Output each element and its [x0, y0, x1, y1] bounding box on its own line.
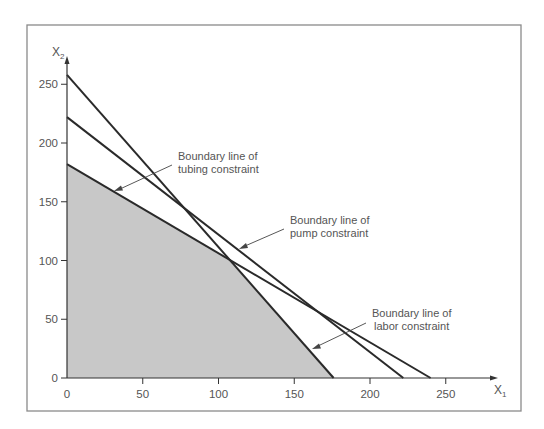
annotation-pump-line2: pump constraint: [290, 227, 368, 239]
annotation-labor-line2: labor constraint: [374, 320, 449, 332]
arrowhead-icon: [312, 344, 321, 350]
y-axis-title: X2: [52, 45, 65, 61]
y-tick-label: 50: [45, 313, 58, 325]
x-tick-label: 100: [209, 388, 228, 400]
x-tick-label: 150: [285, 388, 304, 400]
linear-programming-chart: 050100150200250 050100150200250 X2 X1 Bo…: [0, 0, 544, 429]
y-tick-label: 250: [39, 78, 58, 90]
x-tick-label: 50: [136, 388, 149, 400]
annotation-tubing-line1: Boundary line of: [178, 150, 258, 162]
y-tick-label: 150: [39, 196, 58, 208]
arrowhead-icon: [239, 243, 248, 249]
annotation-labor: Boundary line of labor constraint: [312, 307, 452, 349]
annotation-tubing-line2: tubing constraint: [178, 163, 259, 175]
y-axis-ticks: 050100150200250: [39, 78, 67, 384]
annotation-pump: Boundary line of pump constraint: [239, 214, 370, 249]
x-tick-label: 250: [436, 388, 455, 400]
annotation-pump-line1: Boundary line of: [290, 214, 370, 226]
annotation-labor-line1: Boundary line of: [372, 307, 452, 319]
x-axis-arrow-icon: [490, 376, 498, 381]
x-tick-label: 0: [64, 388, 70, 400]
annotation-pump-arrow: [245, 229, 284, 246]
y-tick-label: 200: [39, 137, 58, 149]
feasible-region: [67, 164, 334, 378]
x-axis-ticks: 050100150200250: [64, 378, 456, 400]
x-tick-label: 200: [360, 388, 379, 400]
y-tick-label: 0: [52, 372, 58, 384]
y-axis-arrow-icon: [65, 56, 70, 64]
y-tick-label: 100: [39, 255, 58, 267]
arrowhead-icon: [114, 186, 123, 192]
x-axis-title: X1: [494, 383, 507, 399]
